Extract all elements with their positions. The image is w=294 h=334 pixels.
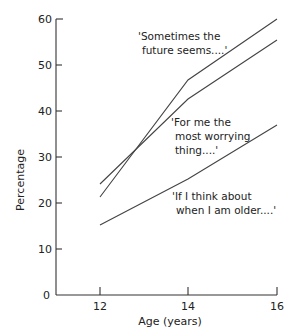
y-tick-label: 60 bbox=[38, 13, 52, 26]
x-axis-title: Age (years) bbox=[138, 315, 202, 328]
svg-text:thing....': thing....' bbox=[175, 144, 218, 156]
y-tick-label: 50 bbox=[38, 59, 52, 72]
annotation-when-older: 'If I think about when I am older....' bbox=[172, 190, 276, 216]
x-ticks bbox=[100, 287, 277, 295]
chart-canvas: 60 50 40 30 20 10 0 12 14 16 Age (years)… bbox=[0, 0, 294, 334]
y-axis-title: Percentage bbox=[14, 149, 27, 211]
y-tick-label: 10 bbox=[38, 243, 52, 256]
svg-text:when I am older....': when I am older....' bbox=[176, 204, 276, 216]
y-tick-label: 20 bbox=[38, 197, 52, 210]
x-tick-labels: 12 14 16 bbox=[93, 300, 284, 313]
y-ticks bbox=[56, 19, 63, 249]
svg-text:'For me the: 'For me the bbox=[171, 116, 231, 128]
svg-text:'If I think about: 'If I think about bbox=[172, 190, 252, 202]
x-tick-label: 14 bbox=[181, 300, 195, 313]
line-chart: 60 50 40 30 20 10 0 12 14 16 Age (years)… bbox=[0, 0, 294, 334]
annotation-most-worrying: 'For me the most worrying thing....' bbox=[171, 116, 251, 156]
y-tick-label: 30 bbox=[38, 151, 52, 164]
svg-text:most worrying: most worrying bbox=[175, 130, 251, 142]
x-tick-label: 12 bbox=[93, 300, 107, 313]
y-tick-label: 0 bbox=[43, 289, 50, 302]
y-tick-label: 40 bbox=[38, 105, 52, 118]
annotation-sometimes-future: 'Sometimes the future seems....' bbox=[138, 30, 227, 56]
svg-text:future seems....': future seems....' bbox=[142, 44, 227, 56]
x-tick-label: 16 bbox=[270, 300, 284, 313]
y-tick-labels: 60 50 40 30 20 10 0 bbox=[38, 13, 52, 302]
svg-text:'Sometimes the: 'Sometimes the bbox=[138, 30, 220, 42]
